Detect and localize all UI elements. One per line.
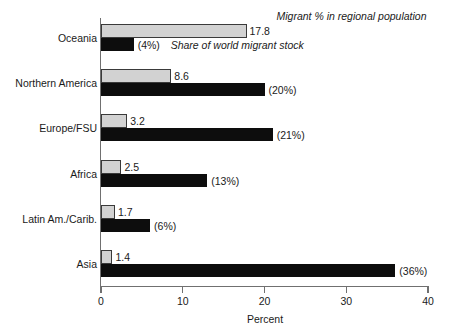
x-tick-label-0: 0	[98, 295, 104, 307]
category-label-northern-america: Northern America	[15, 77, 97, 89]
category-label-asia: Asia	[77, 258, 97, 270]
bar-share-stock-oceania	[101, 38, 134, 52]
bar-value-migrant-pct-latin-am-carib: 1.7	[118, 206, 133, 218]
bar-value-share-stock-latin-am-carib: (6%)	[154, 220, 176, 232]
bar-value-migrant-pct-europe-fsu: 3.2	[130, 115, 145, 127]
bar-migrant-pct-northern-america	[101, 69, 171, 83]
x-axis-title: Percent	[247, 313, 283, 325]
bar-share-stock-northern-america	[101, 83, 265, 97]
bar-share-stock-africa	[101, 174, 207, 188]
legend-label-share-stock: Share of world migrant stock	[171, 39, 304, 51]
bar-value-migrant-pct-northern-america: 8.6	[174, 70, 189, 82]
x-tick-40	[427, 287, 428, 293]
bar-value-share-stock-oceania: (4%)	[138, 39, 160, 51]
bar-share-stock-asia	[101, 264, 395, 278]
bar-value-share-stock-europe-fsu: (21%)	[277, 129, 305, 141]
bar-migrant-pct-latin-am-carib	[101, 205, 115, 219]
bar-value-share-stock-asia: (36%)	[399, 265, 427, 277]
bar-share-stock-latin-am-carib	[101, 219, 150, 233]
bar-migrant-pct-oceania	[101, 24, 247, 38]
migration-bar-chart: 010203040 OceaniaNorthern AmericaEurope/…	[0, 0, 450, 336]
bar-share-stock-europe-fsu	[101, 128, 273, 142]
y-axis-line	[100, 18, 101, 287]
x-tick-30	[346, 287, 347, 293]
bar-value-migrant-pct-asia: 1.4	[115, 251, 130, 263]
x-tick-10	[182, 287, 183, 293]
x-tick-label-40: 40	[422, 295, 434, 307]
bar-migrant-pct-africa	[101, 160, 121, 174]
bar-value-migrant-pct-oceania: 17.8	[250, 25, 270, 37]
x-tick-label-10: 10	[177, 295, 189, 307]
legend-label-migrant-pct: Migrant % in regional population	[277, 10, 427, 22]
x-tick-20	[264, 287, 265, 293]
bar-value-share-stock-africa: (13%)	[211, 175, 239, 187]
bar-migrant-pct-asia	[101, 250, 112, 264]
x-tick-0	[100, 287, 101, 293]
category-label-africa: Africa	[70, 168, 97, 180]
bar-migrant-pct-europe-fsu	[101, 114, 127, 128]
bar-value-share-stock-northern-america: (20%)	[269, 84, 297, 96]
x-tick-label-20: 20	[259, 295, 271, 307]
bar-value-migrant-pct-africa: 2.5	[124, 161, 139, 173]
category-label-europe-fsu: Europe/FSU	[39, 122, 97, 134]
category-label-latin-am-carib: Latin Am./Carib.	[22, 213, 97, 225]
category-label-oceania: Oceania	[58, 32, 97, 44]
x-tick-label-30: 30	[340, 295, 352, 307]
